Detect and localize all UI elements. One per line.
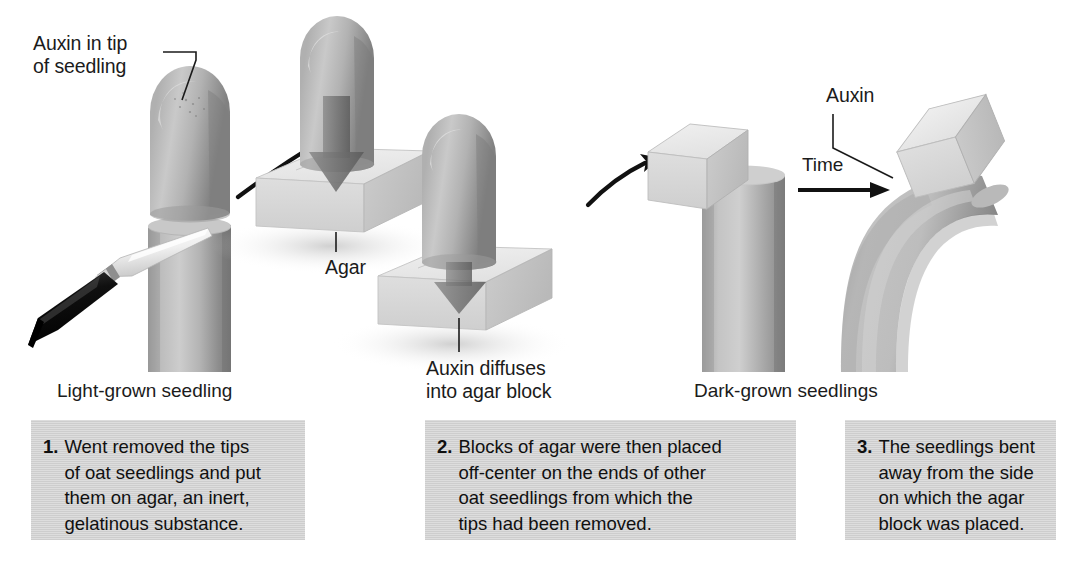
caption-box-step-2: 2. Blocks of agar were then placed off-c…	[425, 420, 796, 540]
caption-text-1: Went removed the tips of oat seedlings a…	[64, 434, 291, 536]
caption-text-3: The seedlings bent away from the side on…	[878, 434, 1042, 536]
caption-number-3: 3.	[857, 434, 878, 460]
caption-number-1: 1.	[43, 434, 64, 460]
diffusion-arrow-1	[309, 96, 364, 192]
stage-3a-artwork	[648, 124, 785, 372]
transfer-arrow-2	[588, 154, 660, 205]
diffusion-arrow-2	[434, 262, 486, 314]
stage-label-light-grown-seedling: Light-grown seedling	[57, 380, 232, 402]
caption-text-2: Blocks of agar were then placed off-cent…	[458, 434, 782, 536]
stage-label-dark-grown-seedlings: Dark-grown seedlings	[694, 380, 878, 402]
callout-auxin-in-tip: Auxin in tip of seedling	[33, 32, 127, 78]
callout-agar: Agar	[325, 256, 366, 279]
stage-3b-artwork	[833, 87, 1015, 372]
stage-1-artwork	[28, 52, 334, 372]
callout-auxin-diffuses-into-agar-block: Auxin diffuses into agar block	[426, 357, 551, 403]
callout-time: Time	[802, 153, 843, 176]
caption-box-step-3: 3. The seedlings bent away from the side…	[845, 420, 1056, 540]
time-arrow	[798, 182, 890, 198]
stage-2a-artwork	[212, 16, 448, 274]
caption-number-2: 2.	[437, 434, 458, 460]
caption-box-step-1: 1. Went removed the tips of oat seedling…	[31, 420, 305, 540]
callout-auxin: Auxin	[826, 84, 874, 107]
stage-2b-artwork	[332, 114, 572, 372]
figure-root: Auxin in tip of seedling Agar Auxin diff…	[0, 0, 1081, 563]
